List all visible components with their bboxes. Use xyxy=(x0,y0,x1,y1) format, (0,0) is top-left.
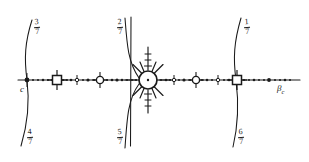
bifurcation-figure: 3 7 4 7 2 7 5 7 1 7 6 7 c βc xyxy=(0,0,309,162)
endpoint-dot-c xyxy=(25,73,30,87)
axis-label-c: c xyxy=(20,85,24,94)
fraction-denominator: 7 xyxy=(117,137,124,146)
arc-middle xyxy=(125,17,139,148)
fraction-arc-middle-top: 2 7 xyxy=(116,18,123,36)
fraction-denominator: 7 xyxy=(27,137,34,146)
fraction-denominator: 7 xyxy=(117,27,124,36)
square-marker-right xyxy=(227,70,247,90)
beta-subscript: c xyxy=(281,88,284,95)
fraction-denominator: 7 xyxy=(238,137,245,146)
fraction-denominator: 7 xyxy=(244,27,251,36)
circle-marker-left xyxy=(92,72,108,88)
fraction-arc-middle-bottom: 5 7 xyxy=(116,128,123,146)
circle-marker-right xyxy=(188,72,204,88)
fraction-arc-left-bottom: 4 7 xyxy=(26,128,33,146)
fraction-arc-right-top: 1 7 xyxy=(243,18,250,36)
fraction-arc-left-top: 3 7 xyxy=(33,18,40,36)
starburst-center xyxy=(125,47,171,113)
square-marker-left xyxy=(47,70,67,90)
fraction-arc-right-bottom: 6 7 xyxy=(237,128,244,146)
axis-label-beta-c: βc xyxy=(277,84,284,95)
fraction-denominator: 7 xyxy=(34,27,41,36)
figure-canvas xyxy=(0,0,309,162)
